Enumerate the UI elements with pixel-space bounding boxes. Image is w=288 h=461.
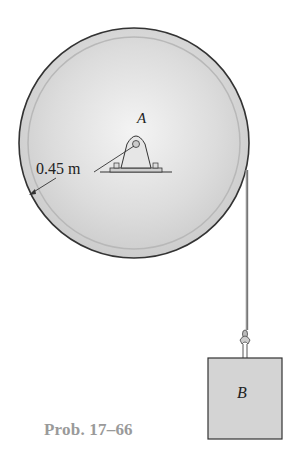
radius-label: 0.45 m xyxy=(36,160,80,178)
point-a-label: A xyxy=(137,110,146,127)
figure-caption: Prob. 17–66 xyxy=(44,420,133,440)
block-b-label: B xyxy=(237,384,247,402)
rope xyxy=(240,170,250,358)
